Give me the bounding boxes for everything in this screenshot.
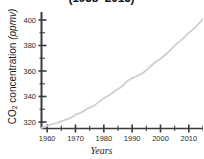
x-tick-label: 1990 bbox=[124, 134, 141, 143]
x-tick-label: 1980 bbox=[95, 134, 112, 143]
x-axis-tick-labels: 196019701980199020002010 bbox=[39, 134, 197, 143]
y-tick-label: 340 bbox=[23, 92, 36, 101]
y-tick-label: 360 bbox=[23, 67, 36, 76]
y-tick-label: 400 bbox=[23, 16, 36, 25]
co2-data-line bbox=[42, 19, 204, 128]
x-tick-label: 2010 bbox=[180, 134, 197, 143]
x-tick-label: 2000 bbox=[152, 134, 169, 143]
co2-concentration-chart: (1958–2015) CO2 concentration (ppmv) Yea… bbox=[0, 0, 203, 159]
y-tick-label: 320 bbox=[23, 118, 36, 127]
plot-area: 320340360380400 196019701980199020002010 bbox=[0, 0, 203, 159]
x-tick-label: 1960 bbox=[39, 134, 56, 143]
x-tick-label: 1970 bbox=[67, 134, 84, 143]
y-tick-label: 380 bbox=[23, 41, 36, 50]
y-axis-tick-labels: 320340360380400 bbox=[23, 16, 36, 127]
